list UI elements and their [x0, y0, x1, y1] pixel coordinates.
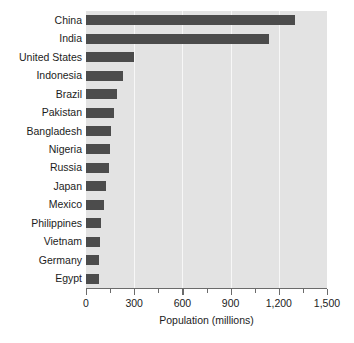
- bar-row: [86, 251, 327, 269]
- y-axis-label-brazil: Brazil: [0, 89, 82, 100]
- x-tick-label-0: 0: [83, 297, 89, 309]
- bar-nigeria: [86, 144, 110, 154]
- bar-chart-figure: ChinaIndiaUnited StatesIndonesiaBrazilPa…: [0, 0, 354, 343]
- bar-row: [86, 177, 327, 195]
- x-tick-label-600: 600: [174, 297, 192, 309]
- x-tick-label-1200: 1,200: [266, 297, 292, 309]
- y-axis-label-japan: Japan: [0, 181, 82, 192]
- bar-pakistan: [86, 108, 114, 118]
- plot-area: [86, 11, 327, 288]
- bar-indonesia: [86, 71, 123, 81]
- x-tick-label-900: 900: [222, 297, 240, 309]
- x-tick-major-0: [86, 289, 87, 295]
- x-tick-minor-750: [207, 289, 208, 293]
- x-tick-label-1500: 1,500: [314, 297, 340, 309]
- x-tick-major-1200: [279, 289, 280, 295]
- x-tick-minor-1350: [303, 289, 304, 293]
- x-tick-minor-150: [110, 289, 111, 293]
- bar-row: [86, 29, 327, 47]
- bar-row: [86, 214, 327, 232]
- x-tick-minor-450: [158, 289, 159, 293]
- bar-india: [86, 34, 269, 44]
- bar-row: [86, 196, 327, 214]
- y-axis-label-pakistan: Pakistan: [0, 107, 82, 118]
- y-axis-label-united-states: United States: [0, 52, 82, 63]
- bar-bangladesh: [86, 126, 111, 136]
- bar-row: [86, 48, 327, 66]
- bar-row: [86, 140, 327, 158]
- bar-brazil: [86, 89, 117, 99]
- y-axis-label-china: China: [0, 15, 82, 26]
- y-axis-label-vietnam: Vietnam: [0, 236, 82, 247]
- bar-russia: [86, 163, 109, 173]
- x-tick-major-300: [134, 289, 135, 295]
- y-axis-label-philippines: Philippines: [0, 218, 82, 229]
- y-axis-label-bangladesh: Bangladesh: [0, 126, 82, 137]
- y-axis-label-india: India: [0, 33, 82, 44]
- bar-row: [86, 66, 327, 84]
- x-tick-major-900: [231, 289, 232, 295]
- bar-united-states: [86, 52, 134, 62]
- bar-row: [86, 103, 327, 121]
- bar-row: [86, 11, 327, 29]
- bar-egypt: [86, 274, 99, 284]
- bar-germany: [86, 255, 99, 265]
- bar-china: [86, 15, 295, 25]
- bar-mexico: [86, 200, 104, 210]
- y-axis-label-nigeria: Nigeria: [0, 144, 82, 155]
- x-tick-minor-1050: [255, 289, 256, 293]
- bar-japan: [86, 181, 106, 191]
- y-axis-label-germany: Germany: [0, 255, 82, 266]
- bar-row: [86, 85, 327, 103]
- y-axis-label-egypt: Egypt: [0, 273, 82, 284]
- bar-row: [86, 122, 327, 140]
- bars-layer: [86, 11, 327, 288]
- y-axis-label-russia: Russia: [0, 162, 82, 173]
- y-axis-label-mexico: Mexico: [0, 199, 82, 210]
- y-axis-label-indonesia: Indonesia: [0, 70, 82, 81]
- x-axis-title: Population (millions): [86, 314, 327, 326]
- bar-row: [86, 233, 327, 251]
- y-axis-labels: ChinaIndiaUnited StatesIndonesiaBrazilPa…: [0, 11, 82, 288]
- bar-row: [86, 159, 327, 177]
- x-tick-major-600: [182, 289, 183, 295]
- x-tick-label-300: 300: [125, 297, 143, 309]
- bar-vietnam: [86, 237, 100, 247]
- x-tick-major-1500: [327, 289, 328, 295]
- bar-philippines: [86, 218, 101, 228]
- bar-row: [86, 270, 327, 288]
